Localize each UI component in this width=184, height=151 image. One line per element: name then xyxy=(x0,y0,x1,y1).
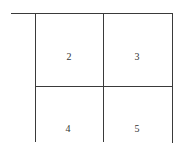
middle-horizontal-line xyxy=(35,86,172,87)
cell-label-3: 3 xyxy=(135,51,140,62)
cell-label-2: 2 xyxy=(67,51,72,62)
right-vertical-line xyxy=(172,14,173,143)
cell-label-5: 5 xyxy=(135,123,140,134)
middle-vertical-line xyxy=(103,13,104,142)
left-vertical-line xyxy=(35,13,36,142)
cell-label-4: 4 xyxy=(66,123,71,134)
